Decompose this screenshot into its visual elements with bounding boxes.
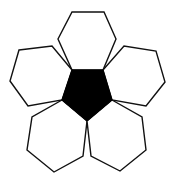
soccer-ball-diagram xyxy=(0,0,174,180)
hexagon-right xyxy=(103,46,165,106)
hexagon-top xyxy=(58,12,116,70)
